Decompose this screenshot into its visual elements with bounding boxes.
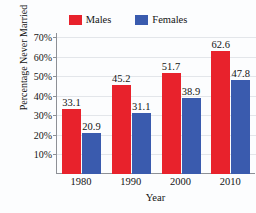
x-axis-tick-label: 1990 [120,176,141,187]
y-axis-tick-label: 60% [24,51,52,62]
y-axis-tick-label: 70% [24,31,52,42]
y-axis-tick-label: 40% [24,90,52,101]
bar-females-2000 [182,98,201,174]
x-axis-tick-labels: 1980199020002010 [56,176,255,190]
bar-group: 45.231.1 [106,33,156,174]
bar-value-label: 33.1 [62,97,80,108]
legend-label-females: Females [152,15,187,26]
y-axis-tick-label: 30% [24,110,52,121]
y-axis-tick-label: 10% [24,149,52,160]
x-axis-title: Year [56,192,255,203]
bar-males-2010 [211,51,230,174]
y-axis-tick-label: 20% [24,129,52,140]
y-axis-tick-labels: 10%20%30%40%50%60%70% [22,33,52,174]
legend-item-females: Females [135,15,187,26]
chart-legend: Males Females [0,13,256,27]
bar-value-label: 47.8 [232,68,250,79]
x-axis-tick-label: 2000 [170,176,191,187]
bar-females-2010 [231,80,250,174]
bar-value-label: 20.9 [82,121,100,132]
bar-group: 51.738.9 [156,33,206,174]
bar-females-1990 [132,113,151,174]
bar-group: 33.120.9 [56,33,106,174]
bar-value-label: 38.9 [182,86,200,97]
legend-swatch-males-icon [69,15,82,25]
legend-item-males: Males [69,15,112,26]
bar-males-1990 [112,85,131,174]
bars-layer: 33.120.945.231.151.738.962.647.8 [56,33,255,174]
bar-males-2000 [162,73,181,174]
bar-value-label: 62.6 [212,39,230,50]
x-axis-tick-label: 1980 [70,176,91,187]
bar-value-label: 31.1 [132,101,150,112]
x-axis-tick-label: 2010 [220,176,241,187]
bar-value-label: 51.7 [162,61,180,72]
bar-value-label: 45.2 [112,73,130,84]
bar-males-1980 [62,109,81,174]
bar-chart: Males Females Percentage Never Married 1… [0,0,256,213]
legend-swatch-females-icon [135,15,148,25]
legend-label-males: Males [86,15,112,26]
y-axis-tick-label: 50% [24,71,52,82]
bar-females-1980 [82,133,101,174]
bar-group: 62.647.8 [205,33,255,174]
